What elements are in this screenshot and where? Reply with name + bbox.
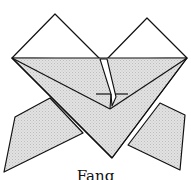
left-ear-flap xyxy=(12,14,100,59)
diagram-caption: Fang xyxy=(0,166,191,180)
right-ear-flap xyxy=(107,18,187,59)
origami-fold-diagram xyxy=(0,0,191,180)
